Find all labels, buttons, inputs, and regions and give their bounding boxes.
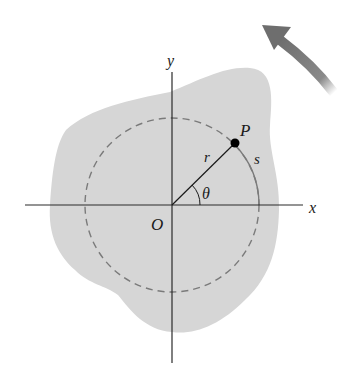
rotation-diagram: y x O P r θ s: [0, 0, 355, 382]
origin-label: O: [151, 215, 163, 234]
rotation-arrow-icon: [262, 25, 334, 93]
radius-label: r: [204, 149, 210, 165]
rigid-body: [50, 68, 279, 333]
y-axis-label: y: [165, 52, 175, 70]
angle-label: θ: [202, 185, 210, 202]
x-axis-label: x: [308, 199, 316, 216]
point-p: [231, 139, 240, 148]
point-label: P: [239, 121, 250, 140]
arc-length-label: s: [254, 151, 260, 167]
